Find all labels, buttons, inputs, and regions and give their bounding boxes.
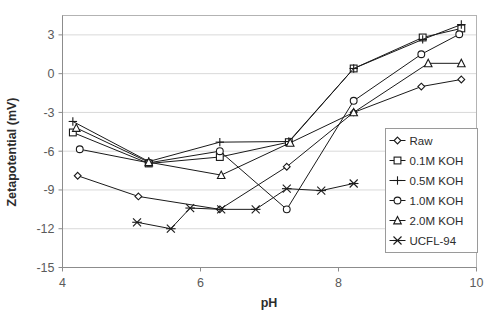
legend-label-1: 0.1M KOH <box>410 155 464 167</box>
datapoint-0-1 <box>135 193 142 200</box>
y-tick-label--6: -6 <box>43 145 54 159</box>
series-ucfl-94 <box>132 180 358 233</box>
legend-label-3: 1.0M KOH <box>410 195 464 207</box>
chart-legend: Raw0.1M KOH0.5M KOH1.0M KOH2.0M KOHUCFL-… <box>386 129 478 253</box>
datapoint-0-6 <box>458 76 465 83</box>
datapoint-3-2 <box>216 148 223 155</box>
datapoint-3-0 <box>76 146 83 153</box>
x-tick-label-6: 6 <box>197 276 204 290</box>
y-tick-label--12: -12 <box>36 222 54 236</box>
x-tick-label-10: 10 <box>470 276 484 290</box>
x-tick-label-4: 4 <box>59 276 66 290</box>
x-axis-title: pH <box>261 296 278 310</box>
datapoint-3-5 <box>418 51 425 58</box>
legend-label-5: UCFL-94 <box>410 235 457 247</box>
legend-label-2: 0.5M KOH <box>410 175 464 187</box>
datapoint-3-3 <box>283 206 290 213</box>
legend-label-0: Raw <box>410 135 434 147</box>
legend-marker-circle-icon <box>394 197 401 204</box>
chart-canvas: 30-3-6-9-12-15 46810 Raw0.1M KOH0.5M KOH… <box>0 0 503 324</box>
datapoint-0-5 <box>418 83 425 90</box>
datapoint-3-6 <box>456 31 463 38</box>
y-axis-ticks-group: 30-3-6-9-12-15 <box>36 28 62 275</box>
datapoint-3-4 <box>350 97 357 104</box>
datapoint-0-0 <box>74 172 81 179</box>
x-tick-label-8: 8 <box>335 276 342 290</box>
y-tick-label--15: -15 <box>36 261 54 275</box>
legend-marker-square-icon <box>394 157 401 164</box>
y-tick-label--9: -9 <box>43 183 54 197</box>
y-tick-label-0: 0 <box>48 67 55 81</box>
legend-label-4: 2.0M KOH <box>410 215 464 227</box>
y-tick-label-3: 3 <box>48 28 55 42</box>
zeta-potential-chart: 30-3-6-9-12-15 46810 Raw0.1M KOH0.5M KOH… <box>0 0 503 324</box>
y-axis-title: Zetapotential (mV) <box>5 97 19 206</box>
y-tick-label--3: -3 <box>43 106 54 120</box>
